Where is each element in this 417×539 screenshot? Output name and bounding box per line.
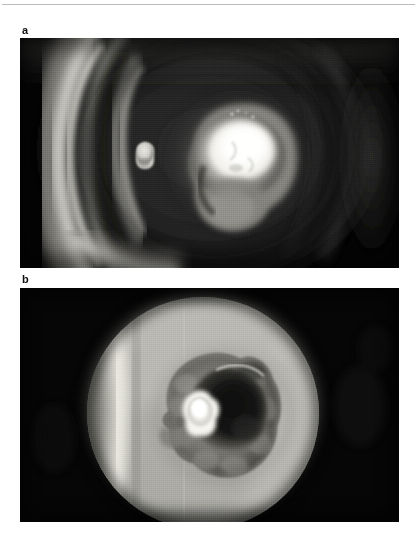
panel-b-image <box>20 288 399 522</box>
panel-b-graphic <box>20 288 399 522</box>
page-top-rule <box>2 4 415 5</box>
figure-root: a <box>0 0 417 539</box>
panel-label-a: a <box>22 25 28 36</box>
panel-a-graphic <box>20 38 399 268</box>
panel-a-image <box>20 38 399 268</box>
panel-label-b: b <box>22 274 29 285</box>
